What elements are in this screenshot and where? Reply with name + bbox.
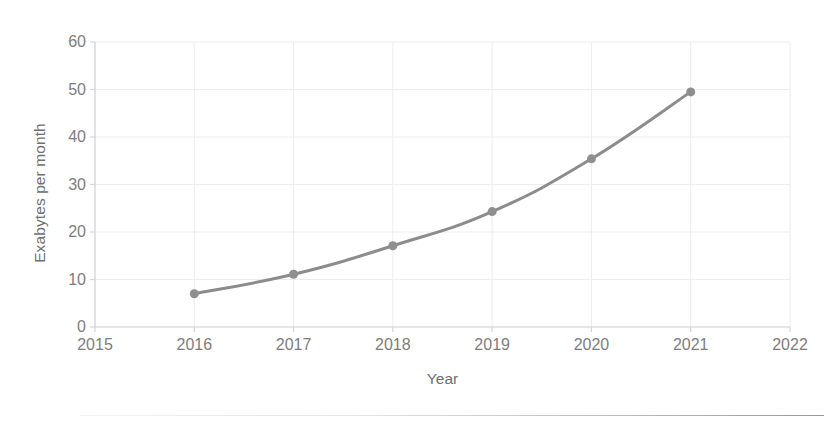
data-point-marker: 2019: 24.3 [488,207,497,216]
plot-area: 2016: 72017: 11.12018: 17.12019: 24.3202… [0,0,824,425]
data-point-marker: 2020: 35.4 [587,154,596,163]
data-series-line [194,92,690,294]
data-point-marker: 2016: 7 [190,289,199,298]
data-point-markers: 2016: 72017: 11.12018: 17.12019: 24.3202… [190,87,695,298]
data-point-marker: 2017: 11.1 [289,270,298,279]
axis-lines [90,42,790,332]
data-point-marker: 2018: 17.1 [388,241,397,250]
chart-figure: Exabytes per month 0102030405060 2015201… [0,0,824,425]
data-point-marker: 2021: 49.5 [686,87,695,96]
gridlines [95,42,790,327]
bottom-divider [80,415,824,416]
series-line-mobile-data-traffic [194,92,690,294]
